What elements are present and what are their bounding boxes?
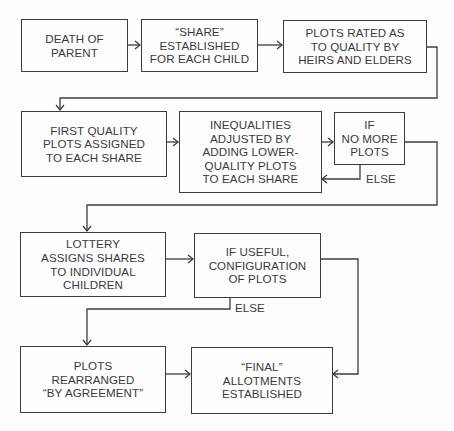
node-text: “FINAL” ALLOTMENTS ESTABLISHED: [222, 360, 302, 401]
edge-ifnomore-else-to-inequalities: [322, 164, 360, 179]
node-death-of-parent: DEATH OF PARENT: [21, 19, 128, 72]
node-inequalities-adjusted: INEQUALITIES ADJUSTED BY ADDING LOWER- Q…: [179, 111, 322, 193]
edge-ifuseful-else-to-rearranged: [87, 297, 230, 345]
flowchart-canvas: DEATH OF PARENT “SHARE” ESTABLISHED FOR …: [0, 0, 454, 431]
node-text: INEQUALITIES ADJUSTED BY ADDING LOWER- Q…: [203, 118, 299, 186]
node-text: PLOTS RATED AS TO QUALITY BY HEIRS AND E…: [298, 26, 412, 67]
node-text: LOTTERY ASSIGNS SHARES TO INDIVIDUAL CHI…: [41, 237, 145, 291]
node-final-allotments: “FINAL” ALLOTMENTS ESTABLISHED: [191, 347, 333, 414]
node-text: FIRST QUALITY PLOTS ASSIGNED TO EACH SHA…: [43, 124, 145, 165]
node-text: PLOTS REARRANGED “BY AGREEMENT”: [43, 359, 143, 400]
node-text: IF NO MORE PLOTS: [341, 118, 397, 159]
node-text: DEATH OF PARENT: [45, 32, 104, 59]
node-plots-rated: PLOTS RATED AS TO QUALITY BY HEIRS AND E…: [283, 20, 427, 73]
node-text: “SHARE” ESTABLISHED FOR EACH CHILD: [150, 25, 249, 66]
else-label-loop: ELSE: [366, 173, 396, 185]
node-lottery-assigns: LOTTERY ASSIGNS SHARES TO INDIVIDUAL CHI…: [20, 232, 166, 297]
else-label-configuration: ELSE: [235, 302, 265, 314]
node-text: IF USEFUL, CONFIGURATION OF PLOTS: [209, 245, 307, 286]
node-share-established: “SHARE” ESTABLISHED FOR EACH CHILD: [141, 19, 258, 72]
node-first-quality-plots: FIRST QUALITY PLOTS ASSIGNED TO EACH SHA…: [21, 111, 167, 177]
node-if-no-more-plots: IF NO MORE PLOTS: [334, 112, 405, 165]
node-plots-rearranged: PLOTS REARRANGED “BY AGREEMENT”: [20, 346, 166, 413]
node-if-useful-configuration: IF USEFUL, CONFIGURATION OF PLOTS: [194, 233, 321, 298]
